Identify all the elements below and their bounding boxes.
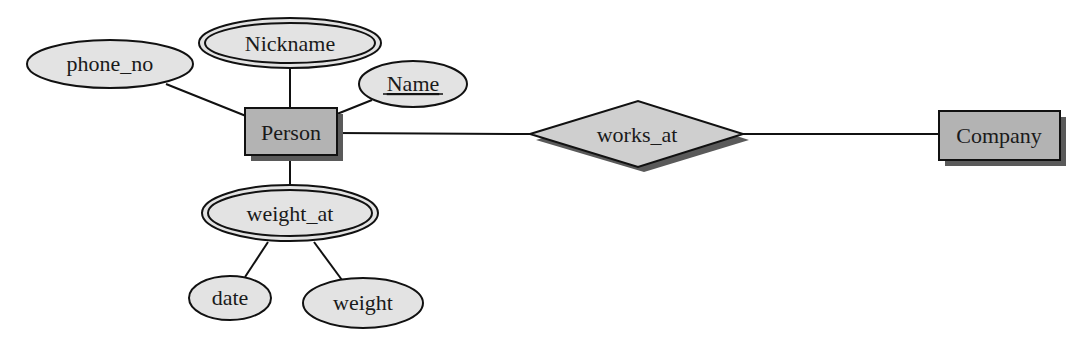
entity-label: Company [956, 123, 1042, 148]
entity-company[interactable]: Company [939, 111, 1066, 166]
er-diagram-canvas: Person Company works_at phone_no Nicknam… [0, 0, 1086, 348]
entity-label: Person [261, 120, 321, 145]
attribute-label: weight_at [247, 201, 334, 226]
attribute-phone_no[interactable]: phone_no [27, 40, 193, 88]
attribute-label: phone_no [67, 51, 154, 76]
attribute-nickname[interactable]: Nickname [199, 18, 381, 68]
connector-lines [166, 68, 939, 280]
line-weight_at-weight [314, 242, 342, 280]
attribute-weight[interactable]: weight [303, 278, 423, 328]
attribute-label: date [212, 285, 249, 310]
attribute-label: Nickname [245, 31, 335, 56]
line-person-phone_no [166, 84, 246, 116]
line-person-name [337, 100, 372, 114]
attribute-label: Name [387, 71, 440, 96]
relationship-works_at[interactable]: works_at [530, 101, 749, 172]
line-weight_at-date [245, 242, 268, 277]
attribute-date[interactable]: date [189, 276, 271, 320]
relationship-label: works_at [597, 122, 678, 147]
attribute-weight_at[interactable]: weight_at [202, 185, 378, 241]
entity-person[interactable]: Person [245, 108, 343, 161]
line-person-works_at [337, 133, 530, 134]
attribute-name[interactable]: Name [359, 61, 467, 107]
attribute-label: weight [333, 290, 393, 315]
